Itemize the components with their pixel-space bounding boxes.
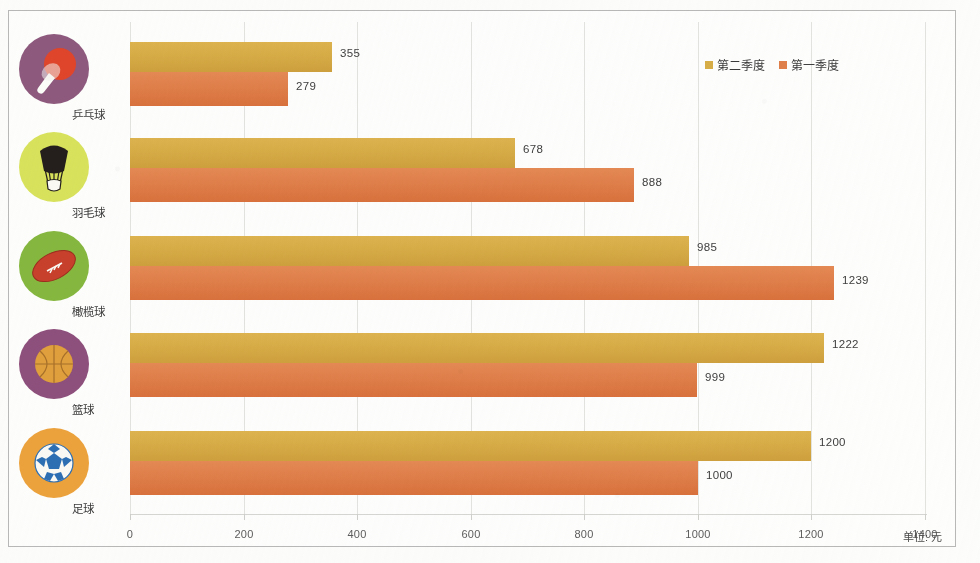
x-axis-line bbox=[130, 514, 927, 515]
category-label-table-tennis: 乒乓球 bbox=[72, 106, 105, 122]
x-axis-label-800: 800 bbox=[575, 528, 594, 540]
x-tick-1200 bbox=[811, 514, 812, 520]
x-axis-label-200: 200 bbox=[235, 528, 254, 540]
bar-q2-row1 bbox=[130, 138, 515, 168]
x-tick-600 bbox=[471, 514, 472, 520]
bar-q1-row0 bbox=[130, 72, 288, 106]
bar-value-q1-row2: 1239 bbox=[842, 274, 869, 286]
bar-q1-row4 bbox=[130, 461, 698, 495]
chart-legend: 第二季度 第一季度 bbox=[705, 56, 839, 73]
x-tick-400 bbox=[357, 514, 358, 520]
bar-q2-row4 bbox=[130, 431, 811, 461]
axis-unit-label: 单位: 元 bbox=[903, 528, 942, 544]
category-label-football: 橄榄球 bbox=[72, 303, 105, 319]
american-football-icon bbox=[18, 230, 90, 302]
bar-q1-row1 bbox=[130, 168, 634, 202]
x-axis-label-400: 400 bbox=[348, 528, 367, 540]
x-tick-1000 bbox=[698, 514, 699, 520]
bar-q1-row3 bbox=[130, 363, 697, 397]
gridline-1400 bbox=[925, 22, 926, 514]
legend-label-q2: 第二季度 bbox=[717, 56, 765, 73]
category-label-soccer: 足球 bbox=[72, 500, 94, 516]
x-tick-0 bbox=[130, 514, 131, 520]
x-axis-label-600: 600 bbox=[462, 528, 481, 540]
bar-value-q2-row0: 355 bbox=[340, 47, 360, 59]
bar-value-q1-row1: 888 bbox=[642, 176, 662, 188]
legend-item-q2[interactable]: 第二季度 bbox=[705, 56, 765, 73]
badminton-shuttlecock-icon bbox=[18, 131, 90, 203]
basketball-icon bbox=[18, 328, 90, 400]
x-tick-1400 bbox=[925, 514, 926, 520]
x-tick-200 bbox=[244, 514, 245, 520]
x-axis-label-1200: 1200 bbox=[798, 528, 823, 540]
bar-q1-row2 bbox=[130, 266, 834, 300]
legend-item-q1[interactable]: 第一季度 bbox=[779, 56, 839, 73]
legend-swatch-q1 bbox=[779, 61, 787, 69]
bar-value-q2-row3: 1222 bbox=[832, 338, 859, 350]
bar-value-q2-row2: 985 bbox=[697, 241, 717, 253]
plot-area: 355 279 678 888 985 1239 1222 999 1200 1… bbox=[130, 22, 925, 514]
bar-value-q1-row3: 999 bbox=[705, 371, 725, 383]
bar-value-q2-row1: 678 bbox=[523, 143, 543, 155]
bar-q2-row0 bbox=[130, 42, 332, 72]
chart-container: 355 279 678 888 985 1239 1222 999 1200 1… bbox=[0, 0, 980, 563]
legend-swatch-q2 bbox=[705, 61, 713, 69]
x-axis-label-1000: 1000 bbox=[685, 528, 710, 540]
bar-q2-row3 bbox=[130, 333, 824, 363]
bar-value-q2-row4: 1200 bbox=[819, 436, 846, 448]
category-label-badminton: 羽毛球 bbox=[72, 204, 105, 220]
bar-q2-row2 bbox=[130, 236, 689, 266]
bar-value-q1-row0: 279 bbox=[296, 80, 316, 92]
soccer-ball-icon bbox=[18, 427, 90, 499]
table-tennis-icon bbox=[18, 33, 90, 105]
x-tick-800 bbox=[584, 514, 585, 520]
legend-label-q1: 第一季度 bbox=[791, 56, 839, 73]
x-axis-label-0: 0 bbox=[127, 528, 133, 540]
category-label-basketball: 篮球 bbox=[72, 401, 94, 417]
bar-value-q1-row4: 1000 bbox=[706, 469, 733, 481]
